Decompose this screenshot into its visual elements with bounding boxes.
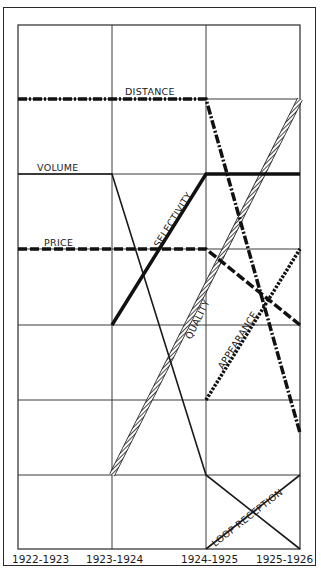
x-tick-1922-1923: 1922-1923 <box>12 553 69 565</box>
x-tick-1924-1925: 1924-1925 <box>181 553 238 565</box>
label-distance: DISTANCE <box>125 86 175 97</box>
label-appearance: APPEARANCE <box>215 309 259 371</box>
label-price: PRICE <box>44 237 73 248</box>
x-tick-1925-1926: 1925-1926 <box>256 553 314 565</box>
label-selectivity: SELECTIVITY <box>151 190 194 249</box>
label-loop-reception: LOOP RECEPTION <box>209 486 284 548</box>
label-volume: VOLUME <box>37 162 79 173</box>
x-tick-1923-1924: 1923-1924 <box>86 553 144 565</box>
chart: DISTANCE VOLUME PRICE SELECTIVITY QUALIT… <box>0 0 321 574</box>
